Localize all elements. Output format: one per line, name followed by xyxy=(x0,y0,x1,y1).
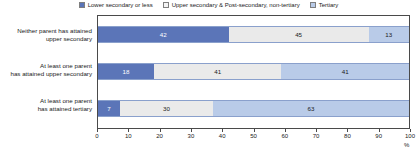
bar-value-label: 63 xyxy=(308,105,315,112)
axis-tick-label: 30 xyxy=(188,132,195,140)
legend-item-lower-secondary-or-less[interactable]: Lower secondary or less xyxy=(79,1,153,9)
category-label-line2: has attained upper secondary xyxy=(0,70,92,78)
bar-value-label: 41 xyxy=(342,68,349,75)
bar-segment-lower-secondary-or-less[interactable]: 42 xyxy=(98,26,229,43)
category-label-line1: At least one parent xyxy=(0,62,92,70)
category-label-line2: has attained tertiary xyxy=(0,105,92,113)
bars-layer: 42 45 13 18 41 41 7 30 xyxy=(98,16,409,128)
category-label-line2: upper secondary xyxy=(0,35,92,43)
bar-segment-upper-secondary[interactable]: 41 xyxy=(154,63,282,80)
chart-legend: Lower secondary or less Upper secondary … xyxy=(0,1,417,9)
axis-tick-label: 10 xyxy=(125,132,132,140)
axis-tick-label: 40 xyxy=(219,132,226,140)
axis-tick-label: 80 xyxy=(344,132,351,140)
bar-segment-upper-secondary[interactable]: 30 xyxy=(120,100,213,117)
value-axis: 0 10 20 30 40 50 60 70 80 90 100 xyxy=(97,129,410,141)
category-label-one-parent-tertiary: At least one parent has attained tertiar… xyxy=(0,97,92,113)
bar-segment-tertiary[interactable]: 41 xyxy=(281,63,409,80)
category-label-line1: Neither parent has attained xyxy=(0,27,92,35)
category-axis-labels: Neither parent has attained upper second… xyxy=(0,15,95,129)
bar-segment-upper-secondary[interactable]: 45 xyxy=(229,26,369,43)
legend-swatch-icon xyxy=(163,2,169,8)
legend-item-label: Lower secondary or less xyxy=(88,1,153,9)
axis-tick-label: 70 xyxy=(313,132,320,140)
bar-value-label: 13 xyxy=(385,31,392,38)
bar-segment-lower-secondary-or-less[interactable]: 18 xyxy=(98,63,154,80)
legend-item-label: Upper secondary & Post-secondary, non-te… xyxy=(172,1,300,9)
bar-segment-tertiary[interactable]: 13 xyxy=(369,26,409,43)
axis-tick-label: 100 xyxy=(405,132,415,140)
axis-tick-label: 60 xyxy=(281,132,288,140)
axis-tick-label: 90 xyxy=(375,132,382,140)
bar-value-label: 42 xyxy=(160,31,167,38)
bar-segment-lower-secondary-or-less[interactable]: 7 xyxy=(98,100,120,117)
stacked-bar-chart: Lower secondary or less Upper secondary … xyxy=(0,0,417,156)
legend-item-upper-secondary-post-secondary[interactable]: Upper secondary & Post-secondary, non-te… xyxy=(163,1,300,9)
legend-item-tertiary[interactable]: Tertiary xyxy=(310,1,339,9)
bar-value-label: 18 xyxy=(123,68,130,75)
axis-tick-label: 20 xyxy=(156,132,163,140)
legend-swatch-icon xyxy=(310,2,316,8)
bar-value-label: 45 xyxy=(295,31,302,38)
bar-row: 7 30 63 xyxy=(98,100,409,117)
legend-swatch-icon xyxy=(79,2,85,8)
bar-value-label: 41 xyxy=(214,68,221,75)
bar-row: 18 41 41 xyxy=(98,63,409,80)
axis-unit-label: % xyxy=(404,141,409,149)
category-label-neither-parent-upper-secondary: Neither parent has attained upper second… xyxy=(0,27,92,43)
bar-value-label: 7 xyxy=(107,105,110,112)
bar-value-label: 30 xyxy=(163,105,170,112)
axis-tick-label: 50 xyxy=(250,132,257,140)
category-label-one-parent-upper-secondary: At least one parent has attained upper s… xyxy=(0,62,92,78)
bar-segment-tertiary[interactable]: 63 xyxy=(213,100,409,117)
category-label-line1: At least one parent xyxy=(0,97,92,105)
bar-row: 42 45 13 xyxy=(98,26,409,43)
axis-tick-label: 0 xyxy=(95,132,98,140)
legend-item-label: Tertiary xyxy=(319,1,339,9)
